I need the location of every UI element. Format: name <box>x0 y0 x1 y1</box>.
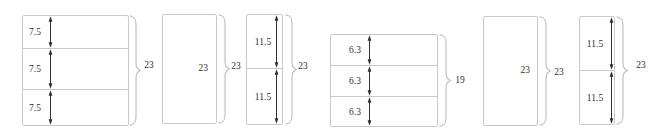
double-arrow-icon <box>365 97 374 126</box>
curly-brace-icon <box>129 15 141 126</box>
band-row: 11.5 <box>247 68 282 124</box>
curly-brace-icon <box>616 16 628 125</box>
brace-dimension-label: 23 <box>633 59 649 71</box>
band-row: 7.5 <box>23 16 128 48</box>
brace-dimension-label: 23 <box>295 60 311 72</box>
double-arrow-icon <box>365 35 374 65</box>
rect-6-two-bands: 11.5 11.5 <box>579 16 615 125</box>
brace-dimension-label: 23 <box>141 59 157 71</box>
double-arrow-icon <box>46 49 55 89</box>
curly-brace-icon <box>439 34 451 127</box>
band-row: 7.5 <box>23 89 128 125</box>
double-arrow-icon <box>46 16 55 48</box>
rect-dimension-label: 23 <box>521 65 531 75</box>
double-arrow-icon <box>607 17 616 70</box>
band-dimension-label: 7.5 <box>23 27 47 37</box>
band-dimension-label: 11.5 <box>580 38 610 48</box>
band-row: 7.5 <box>23 48 128 89</box>
rect-5-plain: 23 <box>483 16 538 126</box>
band-dimension-label: 7.5 <box>23 64 47 74</box>
dimension-diagram: 7.5 7.5 7.5 23 23 23 11.5 11.5 23 6. <box>0 0 664 136</box>
brace-dimension-label: 19 <box>452 74 468 86</box>
band-row: 11.5 <box>580 17 614 70</box>
rect-3-two-bands: 11.5 11.5 <box>246 14 283 125</box>
rect-1-three-bands: 7.5 7.5 7.5 <box>22 15 129 126</box>
brace-dimension-label: 23 <box>228 60 244 72</box>
band-dimension-label: 7.5 <box>23 102 47 112</box>
band-row: 11.5 <box>580 70 614 124</box>
rect-dimension-label: 23 <box>199 63 209 73</box>
band-dimension-label: 11.5 <box>580 92 610 102</box>
band-row: 6.3 <box>331 65 437 96</box>
double-arrow-icon <box>46 90 55 125</box>
band-row: 6.3 <box>331 96 437 126</box>
double-arrow-icon <box>272 69 281 124</box>
double-arrow-icon <box>272 15 281 68</box>
brace-dimension-label: 23 <box>551 66 567 78</box>
band-row: 6.3 <box>331 35 437 65</box>
curly-brace-icon <box>539 16 551 126</box>
rect-2-plain: 23 <box>162 14 217 124</box>
double-arrow-icon <box>365 66 374 96</box>
band-row: 11.5 <box>247 15 282 68</box>
double-arrow-icon <box>607 71 616 124</box>
rect-4-three-bands: 6.3 6.3 6.3 <box>330 34 438 127</box>
